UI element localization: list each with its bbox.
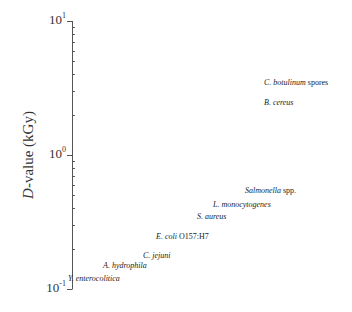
data-point-label: A. hydrophila: [103, 261, 147, 270]
data-point-label: C. botulinum spores: [264, 78, 328, 87]
y-tick-label: 10-1: [46, 280, 66, 296]
data-point-label: Salmonella spp.: [245, 185, 296, 194]
data-point-label: Y. enterocolitica: [68, 274, 120, 283]
y-tick-label: 100: [49, 146, 66, 162]
data-point-label: C. jejuni: [143, 250, 171, 259]
data-point-label: S. aureus: [197, 212, 226, 221]
d-value-chart: D-value (kGy) 10110010-1 C. botulinum sp…: [0, 0, 352, 312]
data-point-label: E. coli O157:H7: [156, 231, 209, 240]
y-tick-label: 101: [49, 12, 66, 28]
data-point-label: L. monocytogenes: [213, 200, 271, 209]
data-point-label: B. cereus: [264, 97, 293, 106]
